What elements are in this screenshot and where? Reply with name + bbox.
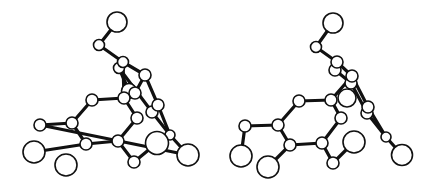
atom <box>331 56 343 68</box>
heavy-atom <box>257 156 279 178</box>
atom <box>139 69 151 81</box>
atom <box>80 138 92 150</box>
atom <box>118 92 130 104</box>
atom <box>346 70 358 82</box>
atom <box>272 119 284 131</box>
atom <box>94 40 105 51</box>
atom <box>152 99 164 111</box>
heavy-atom <box>230 145 252 167</box>
heavy-atom <box>107 12 127 32</box>
atom <box>316 137 328 149</box>
atom <box>66 117 78 129</box>
molecule-view-left <box>23 12 199 176</box>
atom <box>86 94 98 106</box>
heavy-atom <box>55 154 77 176</box>
heavy-atom <box>343 131 365 153</box>
atom <box>327 157 339 169</box>
atom <box>34 119 46 131</box>
atom <box>335 112 347 124</box>
atom <box>112 135 124 147</box>
molecule-view-right <box>230 13 413 178</box>
atom <box>381 132 391 142</box>
atom <box>128 156 140 168</box>
atom <box>129 87 141 99</box>
heavy-atom <box>23 141 45 163</box>
atom <box>362 101 374 113</box>
atom <box>293 95 305 107</box>
heavy-atom <box>323 13 343 33</box>
heavy-atom <box>392 145 413 166</box>
stereo-molecule-diagram <box>0 0 433 192</box>
atom <box>325 94 337 106</box>
atom <box>131 112 143 124</box>
heavy-atom <box>146 132 169 155</box>
atom <box>239 120 251 132</box>
atom <box>284 139 296 151</box>
atom <box>311 42 322 53</box>
atom <box>118 57 129 68</box>
heavy-atom <box>177 144 199 166</box>
heavy-atom <box>338 89 356 107</box>
